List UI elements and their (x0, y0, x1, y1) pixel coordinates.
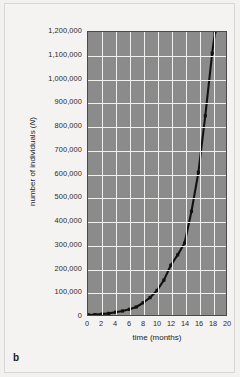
horizontal-gridline (88, 198, 226, 199)
vertical-gridline (130, 32, 131, 315)
x-axis-tick-labels: 02468101214161820 (0, 319, 240, 331)
vertical-gridline (144, 32, 145, 315)
vertical-gridline (102, 32, 103, 315)
y-axis-title: number of individuals (N) (28, 82, 37, 242)
data-point-marker (176, 253, 179, 256)
figure-panel: 1,200,0001,100,0001,000,000900,000800,00… (0, 0, 240, 377)
horizontal-gridline (88, 80, 226, 81)
vertical-gridline (186, 32, 187, 315)
x-axis-tick-label: 12 (164, 319, 178, 328)
x-axis-tick-label: 18 (206, 319, 220, 328)
data-point-markers (88, 32, 217, 315)
horizontal-gridline (88, 246, 226, 247)
y-axis-tick-label: 1,100,000 (24, 50, 82, 59)
horizontal-gridline (88, 270, 226, 271)
y-axis-title-suffix: ) (28, 117, 37, 120)
x-axis-tick-label: 16 (192, 319, 206, 328)
vertical-gridline (214, 32, 215, 315)
y-axis-title-symbol: N (28, 120, 37, 126)
y-axis-tick-label: 1,200,000 (24, 26, 82, 35)
data-point-marker (93, 313, 96, 315)
data-point-marker (135, 305, 138, 308)
data-point-marker (162, 279, 165, 282)
data-point-marker (190, 210, 193, 213)
panel-label: b (13, 352, 19, 363)
x-axis-tick-label: 20 (220, 319, 234, 328)
horizontal-gridline (88, 222, 226, 223)
horizontal-gridline (88, 293, 226, 294)
x-axis-tick-label: 10 (150, 319, 164, 328)
horizontal-gridline (88, 56, 226, 57)
horizontal-gridline (88, 175, 226, 176)
data-point-marker (107, 312, 110, 315)
data-point-marker (88, 313, 90, 315)
curve-line (88, 32, 215, 315)
x-axis-tick-label: 8 (136, 319, 150, 328)
y-axis-title-text: number of individuals ( (28, 125, 37, 205)
vertical-gridline (116, 32, 117, 315)
vertical-gridline (158, 32, 159, 315)
x-axis-title: time (months) (87, 333, 227, 342)
y-axis-tick-label: 100,000 (24, 287, 82, 296)
x-axis-tick-label: 6 (122, 319, 136, 328)
horizontal-gridline (88, 103, 226, 104)
x-axis-tick-label: 0 (80, 319, 94, 328)
vertical-gridline (200, 32, 201, 315)
horizontal-gridline (88, 127, 226, 128)
growth-curve (88, 32, 226, 315)
horizontal-gridline (88, 151, 226, 152)
data-point-marker (204, 114, 207, 117)
plot-area (87, 31, 227, 316)
y-axis-tick-label: 200,000 (24, 264, 82, 273)
data-point-marker (121, 309, 124, 312)
data-point-marker (149, 296, 152, 299)
vertical-gridline (172, 32, 173, 315)
x-axis-tick-label: 4 (108, 319, 122, 328)
x-axis-tick-label: 14 (178, 319, 192, 328)
x-axis-tick-label: 2 (94, 319, 108, 328)
